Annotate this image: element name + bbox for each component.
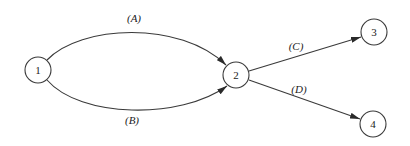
edge-label-b: (B) (125, 114, 139, 127)
network-diagram: (A) (B) (C) (D) 1 2 3 4 (0, 0, 410, 146)
node-3: 3 (361, 19, 387, 45)
node-1: 1 (25, 57, 51, 83)
edge-b (47, 80, 227, 110)
node-4-label: 4 (370, 118, 376, 130)
edge-a (47, 33, 226, 66)
node-4: 4 (360, 111, 386, 137)
edge-label-d: (D) (291, 83, 307, 96)
node-3-label: 3 (371, 26, 377, 38)
node-2-label: 2 (233, 69, 239, 81)
edge-c (249, 37, 361, 71)
node-1-label: 1 (35, 64, 41, 76)
edge-label-c: (C) (289, 40, 304, 53)
node-2: 2 (223, 62, 249, 88)
edge-label-a: (A) (127, 12, 141, 25)
